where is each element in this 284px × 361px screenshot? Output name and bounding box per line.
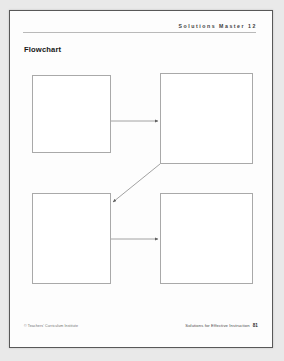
footer-copyright: © Teachers' Curriculum Institute [24,324,78,328]
page-number: 81 [253,323,258,328]
worksheet-page: Solutions Master 12 Flowchart [9,10,273,348]
footer-series: Solutions for Effective Instruction 81 [185,323,258,328]
connector-diagonal [113,164,160,202]
scan-background: Solutions Master 12 Flowchart [0,0,284,361]
page-content: Solutions Master 12 Flowchart [10,11,272,347]
flowchart-connectors [10,11,274,349]
flowchart-box-top-right[interactable] [160,73,253,164]
flowchart-box-bottom-right[interactable] [160,193,253,284]
flowchart-box-bottom-left[interactable] [32,193,111,284]
flowchart-diagram [10,11,274,349]
footer-series-label: Solutions for Effective Instruction [185,323,249,328]
flowchart-box-top-left[interactable] [32,75,111,153]
